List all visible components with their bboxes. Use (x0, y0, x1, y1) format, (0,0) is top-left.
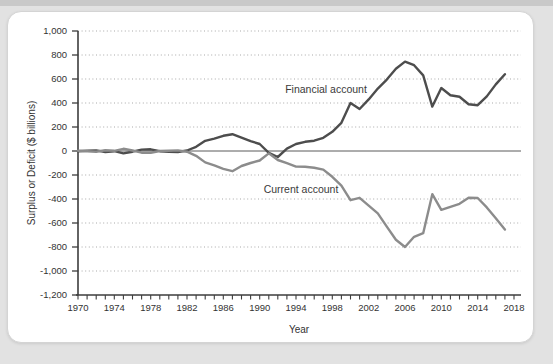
x-tick-label: 2014 (467, 302, 488, 313)
y-axis-title: Surplus or Deficit ($ billions) (26, 101, 37, 226)
series-labels: Financial accountCurrent account (264, 83, 367, 195)
y-tick-label: 0 (62, 145, 67, 156)
y-tick-label: -200 (48, 169, 67, 180)
y-tick-label: -600 (48, 217, 67, 228)
current-account-label: Current account (264, 183, 339, 195)
x-tick-label: 1990 (249, 302, 270, 313)
line-chart: 1,0008006004002000-200-400-600-800-1,000… (0, 0, 553, 364)
y-tick-label: -800 (48, 241, 67, 252)
x-tick-label: 2018 (503, 302, 524, 313)
x-tick-label: 2002 (358, 302, 379, 313)
x-axis-title: Year (289, 324, 310, 335)
x-tick-label: 1970 (67, 302, 88, 313)
y-tick-label: -1,200 (40, 289, 67, 300)
x-tick-label: 1994 (285, 302, 306, 313)
financial-account-line (78, 62, 505, 157)
x-tick-label: 1998 (322, 302, 343, 313)
y-tick-label: 1,000 (43, 25, 67, 36)
y-tick-label: 400 (51, 97, 67, 108)
y-tick-label: -400 (48, 193, 67, 204)
current-account-line (78, 149, 505, 247)
x-tick-label: 1982 (176, 302, 197, 313)
x-tick-label: 1974 (104, 302, 125, 313)
y-tick-label: 200 (51, 121, 67, 132)
y-tick-label: -1,000 (40, 265, 67, 276)
y-tick-label: 600 (51, 73, 67, 84)
financial-account-label: Financial account (285, 83, 367, 95)
x-tick-label: 1978 (140, 302, 161, 313)
y-tick-label: 800 (51, 49, 67, 60)
y-axis: 1,0008006004002000-200-400-600-800-1,000… (40, 25, 78, 300)
x-tick-label: 2006 (394, 302, 415, 313)
x-tick-label: 1986 (213, 302, 234, 313)
x-tick-label: 2010 (431, 302, 452, 313)
x-axis: 1970197419781982198619901994199820022006… (67, 295, 524, 313)
